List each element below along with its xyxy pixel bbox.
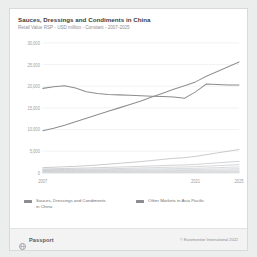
y-axis-tick-label: 5,000 <box>30 149 41 155</box>
x-axis-tick-label: 2021 <box>191 178 200 184</box>
passport-brand[interactable]: Passport <box>19 236 54 243</box>
series-line <box>43 149 239 167</box>
copyright-text: © Euromonitor International 2022 <box>180 237 238 242</box>
legend-label: Sauces, Dressings and Condiments in Chin… <box>36 198 110 210</box>
x-axis-tick-label: 2007 <box>38 178 47 184</box>
legend-swatch-icon <box>136 200 144 203</box>
y-axis-tick-label: 20,000 <box>27 84 40 90</box>
y-axis-tick-label: 0 <box>38 170 41 176</box>
x-axis-tick-label: 2025 <box>235 178 244 184</box>
y-axis-tick-label: 10,000 <box>27 127 40 133</box>
plot-area: 05,00010,00015,00020,00025,00030,0002007… <box>18 38 241 190</box>
y-axis-tick-label: 25,000 <box>27 62 40 68</box>
line-chart-svg: 05,00010,00015,00020,00025,00030,0002007… <box>18 38 241 190</box>
page-title: Sauces, Dressings and Condiments in Chin… <box>18 16 239 24</box>
chart-subtitle: Retail Value RSP - USD million - Constan… <box>18 24 239 31</box>
globe-icon <box>19 236 26 243</box>
brand-name: Passport <box>29 237 54 243</box>
y-axis-tick-label: 30,000 <box>27 40 40 46</box>
legend-item-other-markets[interactable]: Other Markets in Asia Pacific <box>136 198 204 204</box>
legend-swatch-icon <box>24 200 32 203</box>
chart-panel: Sauces, Dressings and Condiments in Chin… <box>10 9 247 228</box>
legend-item-china[interactable]: Sauces, Dressings and Condiments in Chin… <box>24 198 110 210</box>
chart-card: Sauces, Dressings and Condiments in Chin… <box>9 8 248 251</box>
y-axis-tick-label: 15,000 <box>27 105 40 111</box>
series-line <box>43 62 239 131</box>
chart-legend: Sauces, Dressings and Condiments in Chin… <box>24 198 237 222</box>
screenshot-root: Sauces, Dressings and Condiments in Chin… <box>0 0 257 257</box>
legend-label: Other Markets in Asia Pacific <box>148 198 204 204</box>
card-footer: Passport © Euromonitor International 202… <box>10 228 247 250</box>
